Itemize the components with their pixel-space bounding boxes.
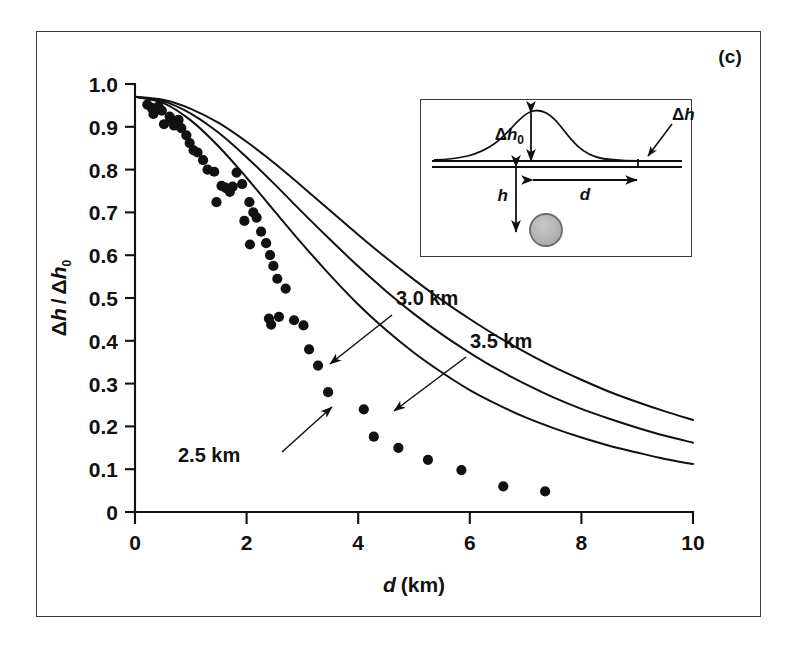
x-ticks <box>135 512 693 524</box>
annotation-3-5-km: 3.5 km <box>394 330 532 411</box>
y-tick-label: 0.1 <box>89 458 119 481</box>
data-point <box>261 238 271 248</box>
data-point <box>245 239 255 249</box>
data-point <box>265 250 275 260</box>
data-point <box>256 227 266 237</box>
y-axis-title: Δh/Δh0 <box>47 260 74 337</box>
annotation-label: 3.0 km <box>396 287 458 309</box>
y-tick-labels: 1.0 0.9 0.8 0.7 0.6 0.5 0.4 0.3 0.2 0.1 … <box>89 73 119 524</box>
data-point <box>540 486 550 496</box>
inset-diagram <box>420 99 692 257</box>
x-axis-title-unit: (km) <box>401 573 445 596</box>
data-point <box>274 312 284 322</box>
data-point <box>289 315 299 325</box>
x-axis-title-symbol: d <box>383 573 397 596</box>
annotation-label: 2.5 km <box>178 444 240 466</box>
data-point <box>359 404 369 414</box>
y-tick-label: 0.6 <box>89 244 118 267</box>
data-point <box>231 168 241 178</box>
leader-line <box>282 407 332 452</box>
x-tick-labels: 0 2 4 6 8 10 <box>129 531 705 554</box>
data-point <box>272 274 282 284</box>
data-point <box>211 197 221 207</box>
data-point <box>237 179 247 189</box>
svg-text:Δh/Δh0: Δh/Δh0 <box>47 260 74 337</box>
x-axis-title: d(km) <box>383 573 445 596</box>
y-tick-label: 0.4 <box>89 330 119 353</box>
data-point <box>298 320 308 330</box>
x-tick-label: 0 <box>129 531 141 554</box>
y-tick-label: 1.0 <box>89 73 118 96</box>
x-tick-label: 10 <box>681 531 704 554</box>
y-tick-label: 0.9 <box>89 116 118 139</box>
y-tick-label: 0.8 <box>89 159 119 182</box>
data-point <box>266 319 276 329</box>
data-point <box>198 155 208 165</box>
y-tick-label: 0.2 <box>89 415 118 438</box>
data-point <box>228 182 238 192</box>
y-tick-label: 0.7 <box>89 201 118 224</box>
data-point <box>498 481 508 491</box>
data-point <box>268 261 278 271</box>
data-point <box>369 432 379 442</box>
annotation-label: 3.5 km <box>470 330 532 352</box>
data-point <box>209 167 219 177</box>
data-point <box>456 465 466 475</box>
y-tick-label: 0.5 <box>89 287 119 310</box>
y-tick-label: 0.3 <box>89 373 118 396</box>
x-tick-label: 2 <box>241 531 253 554</box>
data-point <box>393 443 403 453</box>
leader-line <box>330 315 392 364</box>
annotation-2-5-km: 2.5 km <box>178 407 332 466</box>
data-point <box>244 197 254 207</box>
x-tick-label: 4 <box>352 531 364 554</box>
plot-area: 1.0 0.9 0.8 0.7 0.6 0.5 0.4 0.3 0.2 0.1 … <box>0 0 788 652</box>
data-point <box>239 216 249 226</box>
x-tick-label: 8 <box>576 531 588 554</box>
svg-text:d(km): d(km) <box>383 573 445 596</box>
x-tick-label: 6 <box>464 531 476 554</box>
data-point <box>304 344 314 354</box>
data-point <box>323 387 333 397</box>
data-point <box>423 455 433 465</box>
figure-panel-c: (c) <box>0 0 788 652</box>
data-point <box>313 361 323 371</box>
y-ticks <box>125 84 135 512</box>
y-tick-label: 0 <box>106 501 118 524</box>
data-point <box>252 212 262 222</box>
data-point <box>281 283 291 293</box>
